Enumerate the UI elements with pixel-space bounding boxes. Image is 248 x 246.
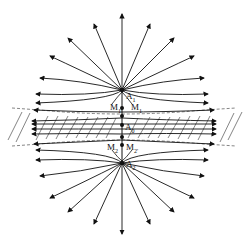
band-field-lines (32, 110, 216, 144)
label-M1-prime: M1' (110, 103, 122, 114)
field-diagram (0, 0, 248, 246)
label-M1: M1 (131, 103, 142, 114)
label-A0: A0 (125, 123, 135, 134)
label-A2: A2 (126, 160, 136, 171)
label-M2-prime: M2' (126, 143, 138, 154)
label-M2: M2 (107, 143, 118, 154)
